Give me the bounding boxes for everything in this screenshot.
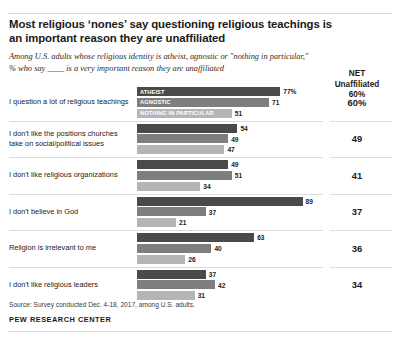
bar-group: 374231 [137,270,327,301]
bar-line: 31 [137,291,327,300]
legend-label: ATHEIST [140,88,165,96]
bar-value-label: 77% [283,87,296,96]
bar-atheist [137,197,303,206]
bar-value-label: 40 [214,244,221,253]
bar-value-label: 26 [188,255,195,264]
legend-label: NOTHING IN PARTICULAR [140,109,214,117]
bar-line: AGNOSTIC71 [137,98,327,107]
bar-line: 37 [137,270,327,279]
bar-line: 63 [137,233,327,242]
bar-line: 47 [137,145,327,154]
bar-value-label: 34 [203,182,210,191]
chart-row: I don't like religious leaders37423134 [0,267,400,304]
chart-row: Religion is irrelevant to me63402636 [0,230,400,267]
category-label: I don't like the positions churches take… [9,121,133,158]
bar-nothing-in-particular [137,291,195,300]
bar-value-label: 37 [209,208,216,217]
net-value: 37 [322,194,392,231]
bar-value-label: 89 [306,197,313,206]
bar-line: ATHEIST77% [137,87,327,96]
category-label: I question a lot of religious teachings [9,84,133,121]
bar-value-label: 54 [240,124,247,133]
net-value: 41 [322,157,392,194]
bar-value-label: 71 [272,98,279,107]
bar-value-label: 21 [179,218,186,227]
bar-value-label: 31 [198,291,205,300]
bar-line: 26 [137,255,327,264]
bar-value-label: 51 [235,171,242,180]
bar-atheist [137,233,254,242]
bar-value-label: 49 [231,160,238,169]
bar-line: 89 [137,197,327,206]
bar-group: 495134 [137,160,327,191]
bar-line: 37 [137,207,327,216]
bar-agnostic [137,280,215,289]
bar-group: 893721 [137,197,327,228]
bar-agnostic [137,134,228,143]
bar-nothing-in-particular [137,182,200,191]
infographic-chart: Most religious ‘nones’ say questioning r… [0,0,400,342]
bar-atheist [137,160,228,169]
bar-group: 544947 [137,124,327,155]
page-title: Most religious ‘nones’ say questioning r… [9,17,339,45]
bar-group: 634026 [137,233,327,264]
bar-value-label: 47 [227,145,234,154]
category-label: I don't like religious organizations [9,157,133,194]
bar-atheist [137,270,206,279]
net-value: 60% [322,84,392,121]
bar-nothing-in-particular [137,255,185,264]
bar-line: 21 [137,218,327,227]
top-divider [8,13,392,14]
bar-line: 54 [137,124,327,133]
chart-row: I don't like the positions churches take… [0,121,400,158]
organization-label: PEW RESEARCH CENTER [9,315,111,324]
bar-value-label: 49 [231,135,238,144]
bar-agnostic [137,171,232,180]
bar-agnostic [137,207,206,216]
net-value: 36 [322,230,392,267]
bar-value-label: 42 [218,281,225,290]
legend-label: AGNOSTIC [140,98,171,106]
chart-subtitle: Among U.S. adults whose religious identi… [9,51,309,74]
bar-atheist [137,124,237,133]
chart-row: I question a lot of religious teachingsA… [0,84,400,121]
category-label: I don't like religious leaders [9,267,133,304]
bar-nothing-in-particular [137,145,224,154]
bar-agnostic [137,244,211,253]
bar-value-label: 37 [209,270,216,279]
bottom-divider [8,331,392,332]
net-header-line-1: NET [322,69,392,80]
chart-row: I don't like religious organizations4951… [0,157,400,194]
category-label: Religion is irrelevant to me [9,230,133,267]
bar-chart-rows: I question a lot of religious teachingsA… [0,84,400,303]
bar-line: 40 [137,244,327,253]
bar-nothing-in-particular [137,218,176,227]
bar-line: 49 [137,160,327,169]
net-value: 49 [322,121,392,158]
chart-row: I don't believe in God89372137 [0,194,400,231]
category-label: I don't believe in God [9,194,133,231]
bar-line: 51 [137,171,327,180]
source-note: Source: Survey conducted Dec. 4-18, 2017… [9,301,195,308]
net-value: 34 [322,267,392,304]
bar-line: 34 [137,182,327,191]
bar-value-label: 51 [235,109,242,118]
bar-line: NOTHING IN PARTICULAR51 [137,109,327,118]
bar-group: ATHEIST77%AGNOSTIC71NOTHING IN PARTICULA… [137,87,327,118]
bar-line: 49 [137,134,327,143]
bar-value-label: 63 [257,233,264,242]
bar-line: 42 [137,280,327,289]
